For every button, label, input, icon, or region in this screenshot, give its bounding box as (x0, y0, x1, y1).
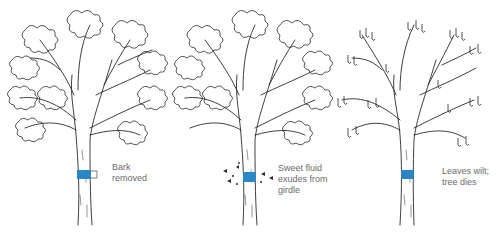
stage-1-panel: Bark removed (0, 0, 170, 233)
healthy-tree-illustration (0, 0, 170, 233)
girdle-band (401, 170, 414, 179)
stage-2-caption: Sweet fluid exudes from girdle (278, 163, 328, 196)
stage-3-panel: Leaves wilt; tree dies (330, 0, 500, 233)
girdle-band (243, 172, 256, 182)
exuding-tree-illustration (165, 0, 340, 233)
stage-2-panel: Sweet fluid exudes from girdle (165, 0, 340, 233)
girdle-band (77, 170, 91, 179)
stage-1-caption: Bark removed (112, 162, 147, 184)
stage-3-caption: Leaves wilt; tree dies (442, 166, 489, 188)
wilted-tree-illustration (330, 0, 500, 233)
wilted-leaves (338, 20, 481, 147)
